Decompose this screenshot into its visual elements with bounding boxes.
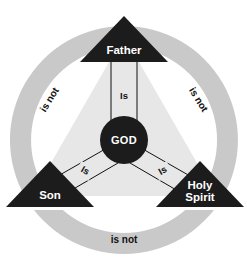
is-label-father: Is [116, 89, 132, 103]
is-label-god-father: Is [120, 90, 128, 101]
son-label: Son [39, 189, 61, 201]
god-label: GOD [111, 134, 137, 146]
father-label: Father [106, 44, 142, 56]
is-not-label-son-holy-spirit: is not [111, 234, 138, 245]
holy-spirit-label-line2: Spirit [185, 191, 215, 203]
center-god-node[interactable]: GOD [100, 116, 148, 164]
trinity-diagram: Father Son Holy Spirit GOD Is Is [0, 0, 247, 263]
holy-spirit-label-line1: Holy [188, 179, 214, 191]
trinity-svg: Father Son Holy Spirit GOD Is Is [0, 0, 247, 263]
